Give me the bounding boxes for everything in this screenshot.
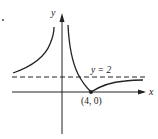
function-graph: y x y = 2 (4, 0) (0, 0, 158, 139)
point-label: (4, 0) (81, 96, 102, 107)
curve-left-branch (13, 27, 54, 73)
x-axis-arrow-icon (138, 90, 146, 95)
x-axis-label: x (148, 86, 154, 97)
y-axis-arrow-icon (60, 13, 65, 22)
marker-dot (2, 19, 4, 21)
asymptote-label: y = 2 (90, 65, 111, 75)
curve-right-branch-ascending (91, 80, 143, 92)
point-marker (89, 90, 93, 94)
y-axis-label: y (50, 7, 56, 18)
curve-right-branch-descending (68, 25, 91, 92)
